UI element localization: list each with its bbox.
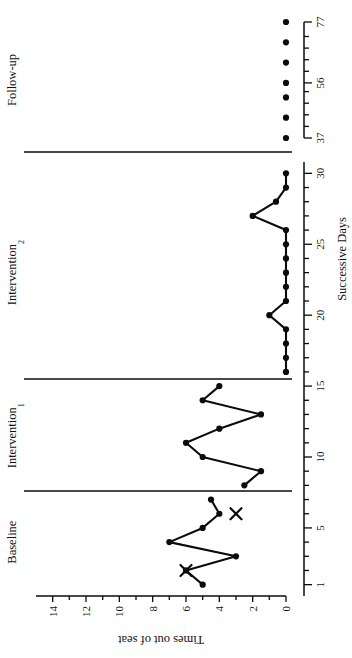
data-point — [200, 454, 206, 460]
x-axis-tick-label: 5 — [314, 525, 326, 531]
x-axis-tick-label: 20 — [314, 309, 326, 321]
x-axis-tick-label: 15 — [314, 380, 326, 392]
y-axis-title: Times out of seat — [117, 633, 204, 647]
data-point — [283, 369, 289, 375]
y-axis-tick-label: 0 — [280, 606, 292, 612]
followup-axis-tick-label: 56 — [314, 77, 326, 89]
data-point — [216, 426, 222, 432]
data-point — [216, 511, 222, 517]
data-point — [241, 482, 247, 488]
data-point — [266, 312, 272, 318]
data-point — [200, 397, 206, 403]
data-line-baseline — [169, 500, 236, 585]
data-point — [273, 199, 279, 205]
data-point — [258, 468, 264, 474]
data-point — [283, 19, 289, 25]
rotated-canvas: 02468101214Times out of seat151015202530… — [0, 0, 352, 658]
data-line-intervention2 — [253, 173, 286, 372]
phase-label-intervention1: Intervention1 — [5, 403, 26, 468]
single-case-design-chart: 02468101214Times out of seat151015202530… — [0, 0, 352, 658]
phase-label-subscript: 2 — [17, 240, 26, 244]
data-point — [216, 383, 222, 389]
data-point — [283, 255, 289, 261]
data-point — [200, 525, 206, 531]
data-line-intervention1 — [186, 386, 261, 485]
data-point — [233, 553, 239, 559]
y-axis-tick-label: 6 — [180, 606, 192, 612]
data-point — [283, 184, 289, 190]
data-point — [283, 284, 289, 290]
x-axis-tick-label: 10 — [314, 451, 326, 463]
data-point — [166, 539, 172, 545]
followup-axis-tick-label: 37 — [314, 132, 326, 144]
x-axis-tick-label: 30 — [314, 167, 326, 179]
data-point — [200, 582, 206, 588]
phase-label-followup: Follow-up — [5, 54, 19, 106]
y-axis-tick-label: 2 — [247, 606, 259, 612]
chart-plot-area: 02468101214Times out of seat151015202530… — [0, 0, 352, 658]
data-point — [283, 241, 289, 247]
data-point — [283, 227, 289, 233]
figure-page: 02468101214Times out of seat151015202530… — [0, 0, 352, 658]
followup-axis-tick-label: 77 — [314, 16, 326, 28]
data-point — [283, 298, 289, 304]
data-point — [183, 440, 189, 446]
data-point — [283, 270, 289, 276]
x-axis-tick-label: 1 — [314, 582, 326, 588]
y-axis-tick-label: 10 — [113, 606, 125, 618]
data-point — [283, 94, 289, 100]
data-point — [250, 213, 256, 219]
y-axis-tick-label: 8 — [147, 606, 159, 612]
data-point — [283, 80, 289, 86]
data-point — [283, 340, 289, 346]
data-point — [208, 496, 214, 502]
data-point — [283, 170, 289, 176]
data-point — [283, 135, 289, 141]
y-axis-tick-label: 14 — [47, 606, 59, 618]
phase-label-intervention2: Intervention2 — [5, 240, 26, 305]
data-point — [283, 59, 289, 65]
x-axis-title: Successive Days — [335, 217, 349, 301]
y-axis-tick-label: 4 — [213, 606, 225, 612]
data-point — [258, 411, 264, 417]
data-point — [283, 39, 289, 45]
data-point — [283, 355, 289, 361]
data-point — [283, 115, 289, 121]
x-axis-tick-label: 25 — [314, 238, 326, 250]
phase-label-baseline: Baseline — [5, 520, 19, 563]
y-axis-tick-label: 12 — [80, 606, 92, 617]
phase-label-subscript: 1 — [17, 403, 26, 407]
data-point — [283, 326, 289, 332]
